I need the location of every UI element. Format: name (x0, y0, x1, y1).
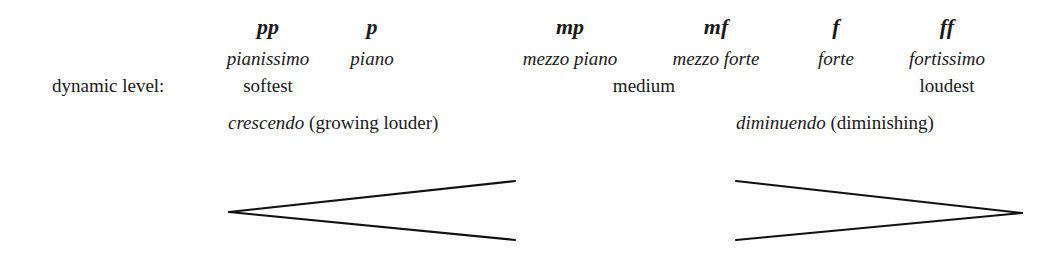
diminuendo-hairpin-icon (736, 181, 1022, 240)
hairpins (0, 0, 1064, 255)
crescendo-hairpin-icon (229, 181, 515, 240)
